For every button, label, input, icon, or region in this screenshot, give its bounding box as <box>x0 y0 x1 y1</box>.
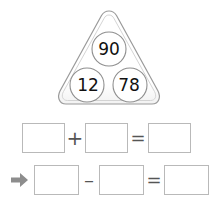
minus-operator: – <box>79 170 99 190</box>
triangle-bottom-right-number: 78 <box>112 70 146 100</box>
addition-equation-row: + = <box>22 121 202 155</box>
equals-operator-subtraction: = <box>144 171 164 189</box>
worksheet-canvas: 90 12 78 + = – = <box>0 0 209 208</box>
addend-2-input-box[interactable] <box>85 123 128 153</box>
plus-operator: + <box>65 128 85 148</box>
subtrahend-input-box[interactable] <box>99 165 144 195</box>
addend-1-input-box[interactable] <box>22 123 65 153</box>
triangle-top-number: 90 <box>92 34 126 64</box>
sum-input-box[interactable] <box>148 123 191 153</box>
number-fact-triangle: 90 12 78 <box>53 8 165 108</box>
subtraction-equation-row: – = <box>10 163 204 197</box>
triangle-bottom-left-number: 12 <box>71 70 105 100</box>
equals-operator: = <box>128 129 148 147</box>
difference-input-box[interactable] <box>164 165 209 195</box>
arrow-right-icon <box>10 170 30 190</box>
minuend-input-box[interactable] <box>34 165 79 195</box>
